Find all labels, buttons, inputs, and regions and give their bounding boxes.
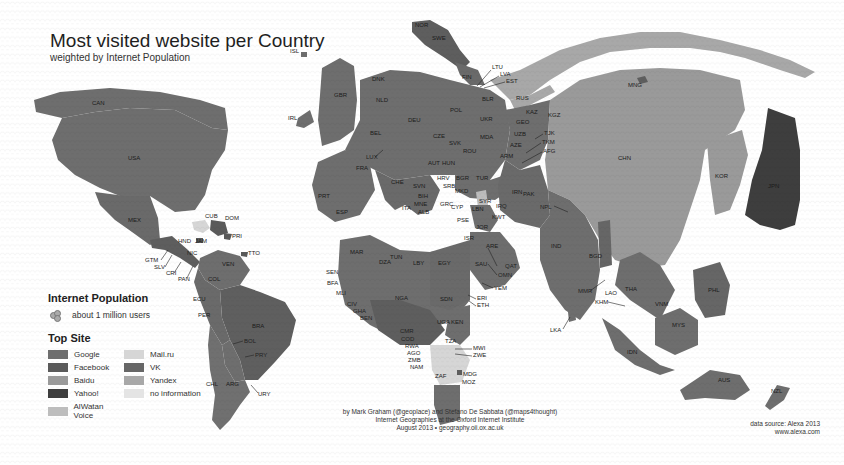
label-uga: UGA [437,319,450,325]
label-rwa: RWA [405,343,419,349]
label-fin: FIN [462,74,472,80]
label-slv: SLV [154,264,165,270]
country-cub[interactable] [192,220,210,233]
label-kor: KOR [715,173,729,179]
credits-institute: Internet Geographies at the Oxford Inter… [300,416,600,424]
label-rus: RUS [516,95,529,101]
label-cze: CZE [433,133,445,139]
label-syr: SYR [479,198,492,204]
label-gbr: GBR [334,92,348,98]
label-kwt: KWT [492,214,506,220]
country-lka[interactable] [568,310,576,322]
label-vnm: VNM [655,301,668,307]
legend-item-facebook: Facebook [48,363,124,372]
swatch-google [48,350,68,359]
label-afg: AFG [543,148,556,154]
label-zaf: ZAF [435,373,447,379]
label-cmr: CMR [400,328,414,334]
swatch-baidu [48,376,68,385]
label-nzl: NZL [771,388,783,394]
legend-item-google: Google [48,350,124,359]
label-uzb: UZB [514,131,526,137]
label-nga: NGA [395,295,408,301]
label-arm: ARM [500,153,513,159]
data-source-url: www.alexa.com [700,428,820,436]
label-che: CHE [391,179,404,185]
label-deu: DEU [408,117,421,123]
label-geo: GEO [516,119,530,125]
label-egy: EGY [438,260,451,266]
legend-item-alwatan: AlWatan Voice [48,402,124,420]
legend-population-row: about 1 million users [50,310,204,320]
label-mli: MLI [336,290,346,296]
country-pri[interactable] [224,233,232,240]
label-hrv: HRV [437,175,450,181]
label-ben: BEN [360,315,372,321]
label-pan: PAN [178,276,190,282]
credits-date: August 2013 • geography.oii.ox.ac.uk [300,424,600,432]
label-tto: TTO [248,250,260,256]
swatch-facebook [48,363,68,372]
label-ind: IND [551,243,562,249]
label-bih: BIH [418,193,428,199]
country-gbr[interactable] [318,58,357,146]
label-tun: TUN [390,254,402,260]
label-phl: PHL [708,287,720,293]
legend-item-yandex: Yandex [124,376,204,385]
label-nic: NIC [187,250,198,256]
label-lva: LVA [500,71,510,77]
legend-label: AlWatan Voice [74,402,124,420]
legend-label: Google [74,350,100,359]
label-hnd: HND [178,238,192,244]
legend-item-noinfo: no information [124,389,204,398]
label-prt: PRT [318,193,330,199]
label-lka: LKA [550,327,561,333]
label-can: CAN [92,100,105,106]
legend-item-vk: VK [124,363,204,372]
legend-label: VK [150,363,161,372]
label-ken: KEN [451,319,463,325]
label-nam: NAM [410,364,423,370]
country-jpn[interactable] [745,108,800,230]
legend-population-title: Internet Population [48,292,204,304]
label-lao: LAO [605,290,617,296]
label-blr: BLR [482,96,494,102]
label-bol: BOL [244,338,257,344]
country-irl[interactable] [296,110,314,128]
label-gha: GHA [353,308,366,314]
country-tto[interactable] [241,252,248,257]
legend-label: Yandex [150,376,177,385]
region-asia [490,32,815,268]
label-srb: SRB [443,183,455,189]
label-ita: ITA [402,205,411,211]
label-ury: URY [258,391,271,397]
label-ago: AGO [407,350,421,356]
label-swe: SWE [432,35,446,41]
swatch-alwatan [48,407,68,416]
country-bgd[interactable] [598,220,612,268]
country-isl[interactable] [301,52,307,57]
legend-site-grid: Google Mail.ru Facebook VK Baidu Yandex … [48,350,204,420]
swatch-yandex [124,376,144,385]
label-est: EST [506,78,518,84]
label-kgz: KGZ [548,112,561,118]
label-kaz: KAZ [526,109,538,115]
credits: by Mark Graham (@geoplace) and Stefano D… [300,408,600,432]
data-source: data source: Alexa 2013 www.alexa.com [700,420,820,436]
country-mdg[interactable] [457,370,462,375]
label-lby: LBY [413,260,424,266]
label-esp: ESP [336,209,348,215]
label-dom: DOM [225,215,239,221]
label-mmr: MMR [578,288,593,294]
label-aze: AZE [510,142,522,148]
country-aus[interactable] [680,370,750,400]
label-mex: MEX [128,217,141,223]
label-zwe: ZWE [473,352,486,358]
credits-authors: by Mark Graham (@geoplace) and Stefano D… [300,408,600,416]
label-aus: AUS [718,377,730,383]
label-col: COL [208,276,221,282]
label-chn: CHN [618,155,631,161]
label-rou: ROU [463,148,476,154]
label-arg: ARG [226,381,239,387]
region-north-america [34,88,248,268]
